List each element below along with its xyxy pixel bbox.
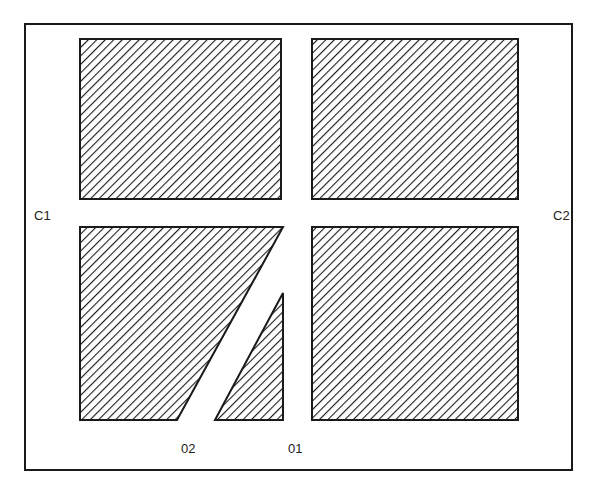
top-left-block (80, 39, 281, 199)
diagram-canvas: C1 C2 02 01 (0, 0, 598, 487)
label-02: 02 (181, 441, 195, 456)
label-c2: C2 (553, 208, 570, 223)
label-c1: C1 (34, 208, 51, 223)
top-right-block (312, 39, 518, 199)
bottom-right-block (312, 227, 518, 420)
label-01: 01 (288, 441, 302, 456)
